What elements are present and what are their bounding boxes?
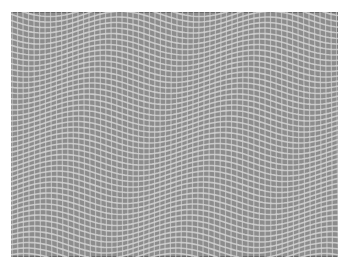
mesh-texture-image <box>11 12 338 257</box>
wavy-grid-pattern <box>11 12 338 257</box>
